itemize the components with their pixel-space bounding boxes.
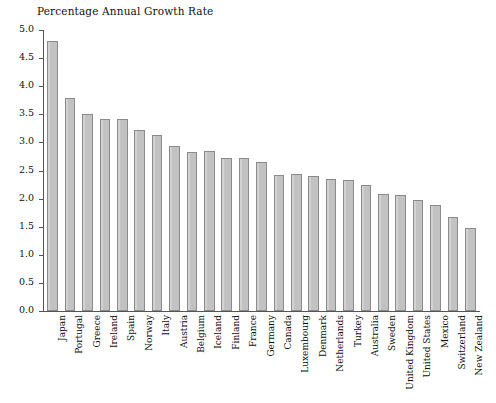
x-axis-tick-label: Finland bbox=[231, 315, 241, 350]
bar-highlight bbox=[135, 131, 137, 310]
bar bbox=[308, 176, 319, 311]
x-axis-line bbox=[43, 311, 480, 312]
bar-highlight bbox=[257, 163, 259, 310]
bar bbox=[239, 158, 250, 311]
x-axis-tick-label: Norway bbox=[144, 315, 154, 351]
bar-highlight bbox=[66, 99, 68, 310]
bar-chart-figure: Percentage Annual Growth Rate 5.04.54.03… bbox=[0, 0, 496, 403]
bar bbox=[448, 217, 459, 311]
y-axis-tick-label: 2.5 bbox=[19, 164, 34, 175]
y-axis-tick-label: 3.5 bbox=[19, 107, 34, 118]
bar bbox=[47, 41, 58, 311]
bar-highlight bbox=[309, 177, 311, 310]
y-axis-tick-label: 0.5 bbox=[19, 276, 34, 287]
x-axis-tick-label: Mexico bbox=[440, 315, 450, 348]
chart-title: Percentage Annual Growth Rate bbox=[37, 5, 214, 17]
x-axis-tick-label: Denmark bbox=[318, 315, 328, 357]
x-axis-tick-label: Australia bbox=[370, 315, 380, 356]
x-axis-tick-label: Luxembourg bbox=[300, 315, 310, 373]
y-axis-tick-label: 5.0 bbox=[19, 23, 34, 34]
bar bbox=[343, 180, 354, 312]
bar bbox=[430, 205, 441, 311]
bar-highlight bbox=[153, 136, 155, 310]
bar-highlight bbox=[466, 229, 468, 310]
y-axis-tick-label: 0.0 bbox=[19, 304, 34, 315]
bar bbox=[117, 119, 128, 311]
x-axis-tick-label: New Zealand bbox=[474, 315, 484, 376]
bar bbox=[221, 158, 232, 311]
bar bbox=[465, 228, 476, 311]
x-axis-tick-label: Belgium bbox=[196, 315, 206, 353]
bar-highlight bbox=[205, 152, 207, 310]
bar-highlight bbox=[431, 206, 433, 310]
y-axis-tick-label: 3.0 bbox=[19, 135, 34, 146]
x-axis-tick-label: France bbox=[248, 315, 258, 347]
bar-highlight bbox=[292, 175, 294, 310]
x-axis-tick-label: United States bbox=[422, 315, 432, 378]
x-axis-tick-label: Germany bbox=[266, 315, 276, 357]
x-axis-tick-label: Sweden bbox=[387, 315, 397, 351]
bar bbox=[361, 185, 372, 311]
x-axis-tick-label: Ireland bbox=[109, 315, 119, 348]
x-axis-tick-label: Canada bbox=[283, 315, 293, 350]
x-axis-tick-label: Austria bbox=[179, 315, 189, 348]
y-axis-tick-label: 1.0 bbox=[19, 248, 34, 259]
y-axis-tick-label: 1.5 bbox=[19, 220, 34, 231]
bar-highlight bbox=[240, 159, 242, 310]
bar-highlight bbox=[275, 176, 277, 310]
x-axis-tick-label: Greece bbox=[92, 315, 102, 348]
bar bbox=[256, 162, 267, 311]
bar bbox=[413, 200, 424, 311]
bar-highlight bbox=[101, 120, 103, 310]
x-axis-tick-label: Netherlands bbox=[335, 315, 345, 372]
x-axis-tick-label: Turkey bbox=[353, 315, 363, 347]
y-axis-tick-mark bbox=[39, 311, 44, 312]
bar bbox=[134, 130, 145, 311]
bar-highlight bbox=[344, 181, 346, 311]
bar bbox=[274, 175, 285, 311]
bar bbox=[82, 114, 93, 311]
bar bbox=[187, 152, 198, 311]
bar-highlight bbox=[83, 115, 85, 310]
plot-area bbox=[44, 30, 479, 311]
bar bbox=[395, 195, 406, 311]
y-axis-tick-label: 4.0 bbox=[19, 79, 34, 90]
bar bbox=[291, 174, 302, 311]
bar-highlight bbox=[222, 159, 224, 310]
x-axis-tick-label: United Kingdom bbox=[405, 315, 415, 390]
x-axis-tick-label: Switzerland bbox=[457, 315, 467, 370]
x-axis-tick-label: Spain bbox=[126, 315, 136, 341]
bar bbox=[378, 194, 389, 311]
y-axis-tick-label: 2.0 bbox=[19, 192, 34, 203]
bar bbox=[169, 146, 180, 311]
bar bbox=[152, 135, 163, 311]
bar-highlight bbox=[48, 42, 50, 310]
bar-highlight bbox=[362, 186, 364, 310]
bar-highlight bbox=[327, 180, 329, 310]
x-axis-tick-label: Italy bbox=[161, 315, 171, 336]
bar bbox=[100, 119, 111, 311]
bar bbox=[65, 98, 76, 311]
bar-highlight bbox=[170, 147, 172, 310]
bar-highlight bbox=[414, 201, 416, 310]
bar-highlight bbox=[118, 120, 120, 310]
bar bbox=[326, 179, 337, 311]
x-axis-tick-label: Japan bbox=[57, 315, 67, 341]
bar-highlight bbox=[449, 218, 451, 310]
bar-highlight bbox=[188, 153, 190, 310]
x-axis-tick-label: Iceland bbox=[213, 315, 223, 349]
bar-highlight bbox=[379, 195, 381, 310]
x-axis-tick-label: Portugal bbox=[74, 315, 84, 354]
bar-highlight bbox=[396, 196, 398, 310]
y-axis-tick-label: 4.5 bbox=[19, 51, 34, 62]
bar bbox=[204, 151, 215, 311]
